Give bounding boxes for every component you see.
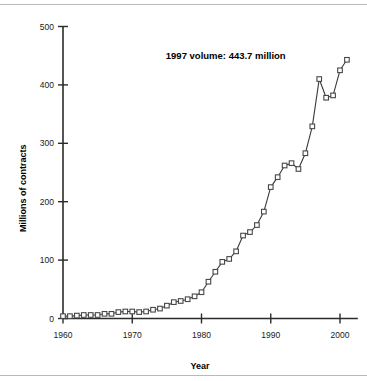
- data-point-marker: [275, 175, 280, 180]
- data-point-marker: [289, 161, 294, 166]
- line-chart-plot: 0100200300400500 19601970198019902000 19…: [0, 0, 367, 381]
- data-point-marker: [116, 310, 121, 315]
- data-point-marker: [241, 233, 246, 238]
- data-point-marker: [185, 297, 190, 302]
- data-point-marker: [282, 163, 287, 168]
- data-point-marker: [137, 310, 142, 315]
- x-tick-label: 1990: [261, 330, 280, 340]
- data-point-marker: [68, 314, 73, 319]
- y-tick-label: 300: [40, 138, 54, 148]
- data-point-marker: [227, 257, 232, 262]
- data-point-marker: [268, 185, 273, 190]
- x-tick-label: 1960: [54, 330, 73, 340]
- data-point-marker: [345, 57, 350, 62]
- data-point-marker: [102, 312, 107, 317]
- data-point-marker: [130, 309, 135, 314]
- data-point-marker: [324, 95, 329, 100]
- y-tick-label: 200: [40, 197, 54, 207]
- y-axis-title: Millions of contracts: [18, 144, 28, 232]
- data-point-marker: [151, 307, 156, 312]
- annotation-group: 1997 volume: 443.7 million: [166, 50, 286, 61]
- x-tick-label: 2000: [331, 330, 350, 340]
- data-point-marker: [303, 151, 308, 156]
- y-tick-label: 0: [49, 314, 54, 324]
- data-point-marker: [248, 230, 253, 235]
- data-point-marker: [234, 249, 239, 254]
- chart-figure: 0100200300400500 19601970198019902000 19…: [0, 0, 367, 381]
- data-point-marker: [255, 223, 260, 228]
- data-point-marker: [199, 290, 204, 295]
- data-point-marker: [165, 303, 170, 308]
- data-point-marker: [88, 313, 93, 318]
- x-tick-label: 1980: [192, 330, 211, 340]
- data-point-marker: [331, 93, 336, 98]
- data-point-marker: [192, 294, 197, 299]
- data-point-marker: [206, 279, 211, 284]
- data-point-marker: [338, 68, 343, 73]
- data-point-marker: [81, 313, 86, 318]
- data-point-marker: [158, 306, 163, 311]
- y-tick-label: 400: [40, 80, 54, 90]
- data-point-marker: [144, 309, 149, 314]
- data-point-marker: [61, 314, 66, 319]
- data-point-marker: [296, 167, 301, 172]
- data-point-marker: [75, 313, 80, 318]
- data-point-marker: [123, 309, 128, 314]
- x-tick-label: 1970: [123, 330, 142, 340]
- chart-annotation: 1997 volume: 443.7 million: [166, 50, 286, 61]
- data-point-marker: [262, 209, 267, 214]
- y-tick-label: 500: [40, 22, 54, 32]
- data-point-marker: [220, 260, 225, 265]
- data-point-marker: [310, 124, 315, 129]
- data-series-group: [61, 57, 350, 318]
- data-point-marker: [213, 269, 218, 274]
- data-point-marker: [317, 77, 322, 82]
- y-axis: 0100200300400500: [40, 22, 68, 324]
- data-point-marker: [95, 313, 100, 318]
- y-tick-label: 100: [40, 255, 54, 265]
- data-point-marker: [109, 312, 114, 317]
- x-axis-title: Year: [190, 361, 210, 371]
- data-point-marker: [172, 300, 177, 305]
- data-point-marker: [178, 299, 183, 304]
